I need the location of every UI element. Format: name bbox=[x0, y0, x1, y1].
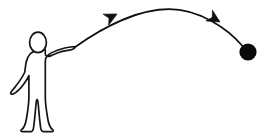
diagram-canvas: Stick figure throwing a ball along a cur… bbox=[0, 0, 274, 139]
stick-person-head bbox=[30, 32, 47, 52]
projectile-diagram-svg: Stick figure throwing a ball along a cur… bbox=[0, 0, 274, 139]
projectile-ball bbox=[239, 43, 256, 60]
stick-person-body-outline bbox=[11, 47, 75, 132]
stick-person bbox=[11, 32, 75, 132]
projectile-trajectory-path bbox=[75, 9, 243, 47]
